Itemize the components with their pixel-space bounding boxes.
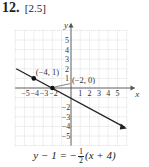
x-tick-label: 5 bbox=[116, 89, 120, 98]
y-tick-label: 4 bbox=[65, 46, 69, 55]
x-tick-label: −4 bbox=[31, 89, 40, 98]
y-axis-arrow-icon bbox=[69, 23, 74, 28]
y-tick-label: −5 bbox=[62, 132, 71, 141]
equation-rhs: (x + 4) bbox=[85, 149, 116, 161]
tick-labels: −5−4−3−21234554321−2−3−4−5 bbox=[21, 36, 119, 141]
y-tick-label: 1 bbox=[65, 74, 69, 83]
x-tick-label: −5 bbox=[21, 89, 30, 98]
equation-lhs: y − 1 = − bbox=[33, 149, 77, 161]
y-tick-label: −3 bbox=[62, 113, 71, 122]
point-marker bbox=[50, 86, 55, 91]
coordinate-graph: xy −5−4−3−21234554321−2−3−4−5 (−4, 1)(−2… bbox=[0, 0, 149, 167]
y-tick-label: 5 bbox=[65, 36, 69, 45]
point-label: (−4, 1) bbox=[36, 67, 59, 77]
x-tick-label: 3 bbox=[97, 89, 101, 98]
plotted-points: (−4, 1)(−2, 0) bbox=[32, 67, 96, 90]
y-tick-label: −2 bbox=[62, 103, 71, 112]
y-tick-label: −4 bbox=[62, 122, 71, 131]
x-tick-label: 4 bbox=[106, 89, 110, 98]
y-tick-label: 3 bbox=[65, 55, 69, 64]
equation: y − 1 = −12(x + 4) bbox=[0, 147, 149, 165]
x-tick-label: 1 bbox=[78, 89, 82, 98]
x-tick-label: 2 bbox=[88, 89, 92, 98]
equation-fraction: 12 bbox=[78, 148, 84, 165]
y-tick-label: 2 bbox=[65, 65, 69, 74]
x-tick-label: −3 bbox=[40, 89, 49, 98]
x-axis-label: x bbox=[134, 89, 139, 99]
point-label: (−2, 0) bbox=[72, 75, 95, 85]
y-axis-label: y bbox=[63, 20, 68, 30]
label-leader-line bbox=[54, 84, 70, 87]
